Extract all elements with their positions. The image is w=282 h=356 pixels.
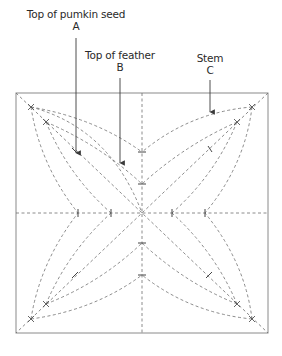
curve-br-inner-bottom — [142, 243, 237, 304]
curve-tr-inner-top — [142, 122, 237, 184]
curve-bl-outer-bottom — [31, 275, 142, 319]
curve-tl-inner-left — [46, 122, 111, 213]
curve-tl-outer-left — [31, 107, 78, 213]
curve-tl-inner-top — [46, 122, 142, 184]
curve-br-inner-right — [172, 213, 237, 304]
curve-tr-outer-top — [142, 107, 252, 152]
curve-bl-inner-bottom — [46, 243, 142, 304]
curve-br-outer-bottom — [142, 275, 252, 319]
curve-bl-outer-left — [31, 213, 78, 319]
quilt-block-diagram — [0, 0, 282, 356]
curve-tl-outer-top — [31, 107, 142, 152]
curve-tr-outer-right — [205, 107, 252, 213]
curve-br-outer-right — [205, 213, 252, 319]
pointer-arrows — [76, 38, 210, 163]
curve-tr-inner-right — [172, 122, 237, 213]
curve-bl-inner-left — [46, 213, 111, 304]
